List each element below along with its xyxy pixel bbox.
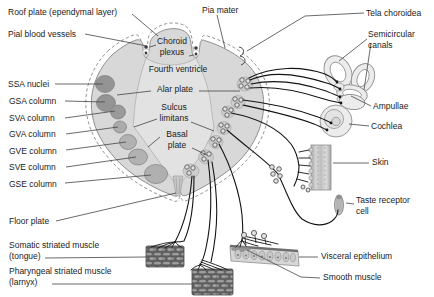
leader-roof-plate: [132, 14, 158, 36]
neuroanatomy-figure: Roof plate (ependymal layer) Pial blood …: [0, 0, 434, 297]
gse-nucleus: [145, 165, 168, 184]
label-pharyngeal-striated-muscle: Pharyngeal striated muscle (larnyx): [9, 266, 112, 287]
leader-cochlea: [349, 124, 369, 126]
label-roof-plate: Roof plate (ependymal layer): [8, 7, 117, 18]
label-tela-choroidea: Tela choroidea: [366, 8, 421, 19]
label-cochlea: Cochlea: [371, 121, 402, 132]
label-gve-column: GVE column: [9, 146, 57, 157]
label-semicircular-canals: Semicircular canals: [368, 29, 415, 50]
leader-tela-choroidea: [247, 13, 364, 51]
label-sulcus-limitans: Sulcus limitans: [160, 102, 189, 123]
leader-pia-mater: [217, 15, 225, 48]
taste-receptor-illustration: [335, 195, 344, 215]
label-ampullae: Ampullae: [373, 101, 408, 112]
label-sva-column: SVA column: [9, 113, 55, 124]
label-floor-plate: Floor plate: [9, 216, 49, 227]
sve-nucleus: [129, 149, 148, 165]
label-choroid-plexus: Choroid plexus: [157, 36, 187, 57]
skin-illustration: [309, 145, 331, 190]
label-gva-column: GVA column: [9, 129, 56, 140]
cochlea-drawing: [320, 105, 352, 137]
label-fourth-ventricle: Fourth ventricle: [149, 64, 208, 75]
label-somatic-striated-muscle: Somatic striated muscle (tongue): [9, 240, 99, 261]
tongue-muscle-illustration: [146, 246, 184, 267]
vestibular-nerve: [251, 82, 340, 97]
leader-gse: [65, 175, 151, 183]
label-taste-receptor-cell: Taste receptor cell: [356, 195, 410, 216]
gve-nucleus: [120, 135, 137, 150]
label-sve-column: SVE column: [9, 162, 56, 173]
label-smooth-muscle: Smooth muscle: [323, 272, 382, 283]
leader-floor-plate: [56, 193, 176, 221]
label-pial-blood-vessels: Pial blood vessels: [8, 29, 76, 40]
label-pia-mater: Pia mater: [202, 5, 238, 16]
label-skin: Skin: [372, 157, 389, 168]
pharyngeal-muscle-illustration: [192, 269, 233, 295]
inner-ear-illustration: [319, 51, 379, 137]
label-ssa-nuclei: SSA nuclei: [8, 79, 49, 90]
visceral-epithelium-illustration: [230, 246, 299, 266]
semicircular-canals-drawing: [319, 51, 379, 111]
label-visceral-epithelium: Visceral epithelium: [321, 251, 392, 262]
label-basal-plate: Basal plate: [166, 129, 187, 150]
sva-nucleus: [111, 105, 126, 119]
ganglion-cells: [241, 165, 310, 239]
label-alar-plate: Alar plate: [157, 84, 193, 95]
label-gse-column: GSE column: [9, 179, 57, 190]
label-gsa-column: GSA column: [9, 96, 56, 107]
leader-taste: [346, 203, 354, 204]
